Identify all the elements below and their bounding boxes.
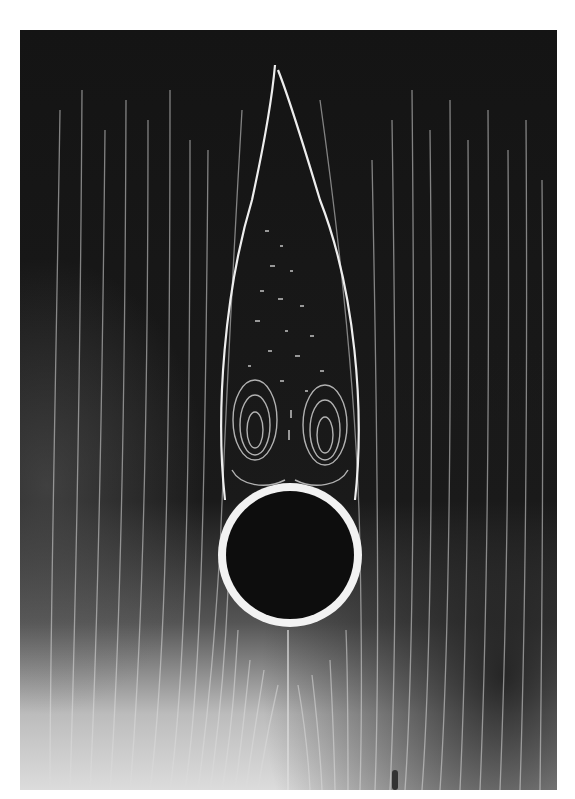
cylinder (218, 483, 362, 627)
flow-visualization-photo (20, 30, 557, 790)
photo-artifact (392, 770, 398, 790)
flow-visualization-svg (20, 30, 557, 790)
